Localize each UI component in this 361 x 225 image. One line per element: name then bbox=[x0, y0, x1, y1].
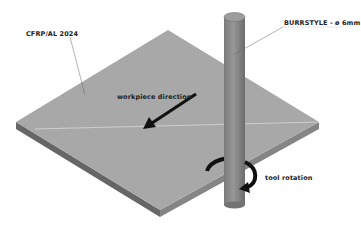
workpiece-plate bbox=[16, 30, 319, 217]
tool-top bbox=[224, 13, 245, 22]
tool-bottom bbox=[224, 202, 245, 209]
plate-top-face bbox=[16, 30, 319, 210]
tool-label: BURRSTYLE - ø 6mm bbox=[284, 19, 360, 27]
tool-rotation-label: tool rotation bbox=[265, 174, 312, 182]
burr-tool bbox=[224, 13, 245, 209]
workpiece-direction-label: workpiece direction bbox=[117, 93, 192, 101]
tool-shank bbox=[224, 17, 245, 205]
material-label: CFRP/AL 2024 bbox=[26, 30, 78, 38]
